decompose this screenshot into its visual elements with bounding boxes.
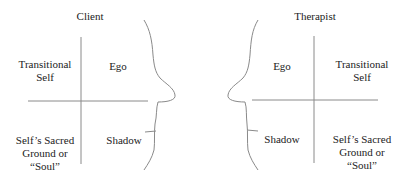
client-title: Client xyxy=(60,10,120,23)
therapist-ego-label: Ego xyxy=(262,60,302,73)
therapist-sacred-ground-label: Self’s Sacred Ground or “Soul” xyxy=(322,133,402,172)
therapist-title: Therapist xyxy=(280,10,350,23)
therapist-shadow-pointer xyxy=(247,130,258,131)
client-ego-label: Ego xyxy=(98,60,138,73)
client-transitional-self-label: Transitional Self xyxy=(5,58,85,84)
therapist-face-profile xyxy=(228,20,258,170)
therapist-shadow-label: Shadow xyxy=(258,133,306,146)
client-face-profile xyxy=(144,20,175,170)
client-sacred-ground-label: Self’s Sacred Ground or “Soul” xyxy=(5,134,85,173)
client-shadow-label: Shadow xyxy=(100,134,148,147)
therapist-transitional-self-label: Transitional Self xyxy=(322,58,402,84)
